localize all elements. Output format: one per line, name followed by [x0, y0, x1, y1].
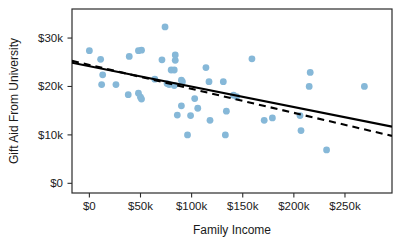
x-tick-label: $250k	[329, 200, 361, 212]
data-point	[187, 112, 194, 119]
data-point	[138, 47, 145, 54]
data-point	[99, 71, 106, 78]
x-tick-label: $50k	[128, 200, 153, 212]
data-point	[220, 78, 227, 85]
data-point	[172, 57, 179, 64]
data-point	[113, 81, 120, 88]
data-point	[174, 112, 181, 119]
data-point	[298, 127, 305, 134]
y-tick-label: $30k	[38, 32, 63, 44]
scatter-plot-figure: $0$10k$20k$30k $0$50k$100k$150k$200k$250…	[0, 0, 412, 243]
data-point	[222, 131, 229, 138]
data-point	[261, 117, 268, 124]
data-point	[207, 117, 214, 124]
data-point	[138, 96, 145, 103]
y-tick-label: $10k	[38, 129, 63, 141]
data-point	[159, 56, 166, 63]
data-point	[203, 64, 210, 71]
x-tick-label: $150k	[227, 200, 259, 212]
data-point	[184, 131, 191, 138]
data-point	[206, 78, 213, 85]
data-point	[126, 53, 133, 60]
data-point	[125, 91, 132, 98]
x-tick-label: $0	[83, 200, 96, 212]
data-point	[97, 56, 104, 63]
data-point	[361, 83, 368, 90]
data-point	[171, 67, 178, 74]
data-point	[269, 115, 276, 122]
x-tick-label: $200k	[278, 200, 310, 212]
plot-canvas: $0$10k$20k$30k $0$50k$100k$150k$200k$250…	[0, 0, 412, 243]
y-axis-title: Gift Aid From University	[7, 38, 21, 164]
data-point	[191, 95, 198, 102]
data-point	[162, 24, 169, 31]
data-point	[178, 102, 185, 109]
data-point	[223, 108, 230, 115]
data-point	[194, 105, 201, 112]
data-point	[249, 55, 256, 62]
y-tick-label: $20k	[38, 80, 63, 92]
data-point	[323, 147, 330, 154]
x-axis-title: Family Income	[193, 223, 271, 237]
data-point	[306, 83, 313, 90]
y-tick-label: $0	[50, 177, 63, 189]
x-tick-label: $100k	[176, 200, 208, 212]
data-point	[98, 81, 105, 88]
data-point	[86, 47, 93, 54]
data-point	[307, 69, 314, 76]
